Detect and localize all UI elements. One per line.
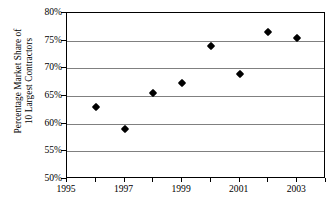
x-axis-tick-label: 2003 bbox=[274, 183, 318, 195]
data-point-marker bbox=[293, 34, 301, 42]
x-axis-tick bbox=[66, 178, 67, 182]
x-axis-tick bbox=[325, 178, 326, 182]
scatter-chart-figure: Percentage Market Share of 10 Largest Co… bbox=[0, 0, 334, 204]
x-axis-tick-label: 2001 bbox=[217, 183, 261, 195]
x-axis-tick bbox=[210, 178, 211, 182]
y-axis-tick-labels: 80%75%70%65%60%55%50% bbox=[22, 0, 62, 204]
data-point-marker bbox=[235, 70, 243, 78]
data-point-marker bbox=[264, 28, 272, 36]
y-axis-tick-label: 80% bbox=[22, 7, 62, 17]
y-axis-tick-label: 55% bbox=[22, 145, 62, 155]
y-axis-tick-label: 60% bbox=[22, 118, 62, 128]
x-axis-tick-label: 1999 bbox=[159, 183, 203, 195]
x-axis-tick-labels: 19951997199920012003 bbox=[0, 183, 334, 201]
data-series-layer bbox=[67, 13, 324, 177]
x-axis-tick bbox=[296, 178, 297, 182]
x-axis-tick bbox=[124, 178, 125, 182]
x-axis-tick-label: 1995 bbox=[44, 183, 88, 195]
data-point-marker bbox=[92, 103, 100, 111]
data-point-marker bbox=[149, 88, 157, 96]
x-axis-tick bbox=[95, 178, 96, 182]
data-point-marker bbox=[120, 125, 128, 133]
data-point-marker bbox=[207, 41, 215, 49]
data-point-marker bbox=[178, 78, 186, 86]
x-axis-tick-label: 1997 bbox=[102, 183, 146, 195]
plot-area bbox=[66, 12, 325, 178]
y-axis-tick-label: 75% bbox=[22, 35, 62, 45]
y-axis-tick-label: 65% bbox=[22, 90, 62, 100]
y-axis-tick-label: 50% bbox=[22, 173, 62, 183]
x-axis-tick bbox=[181, 178, 182, 182]
y-axis-tick-label: 70% bbox=[22, 62, 62, 72]
x-axis-tick bbox=[267, 178, 268, 182]
x-axis-tick bbox=[152, 178, 153, 182]
x-axis-tick bbox=[239, 178, 240, 182]
